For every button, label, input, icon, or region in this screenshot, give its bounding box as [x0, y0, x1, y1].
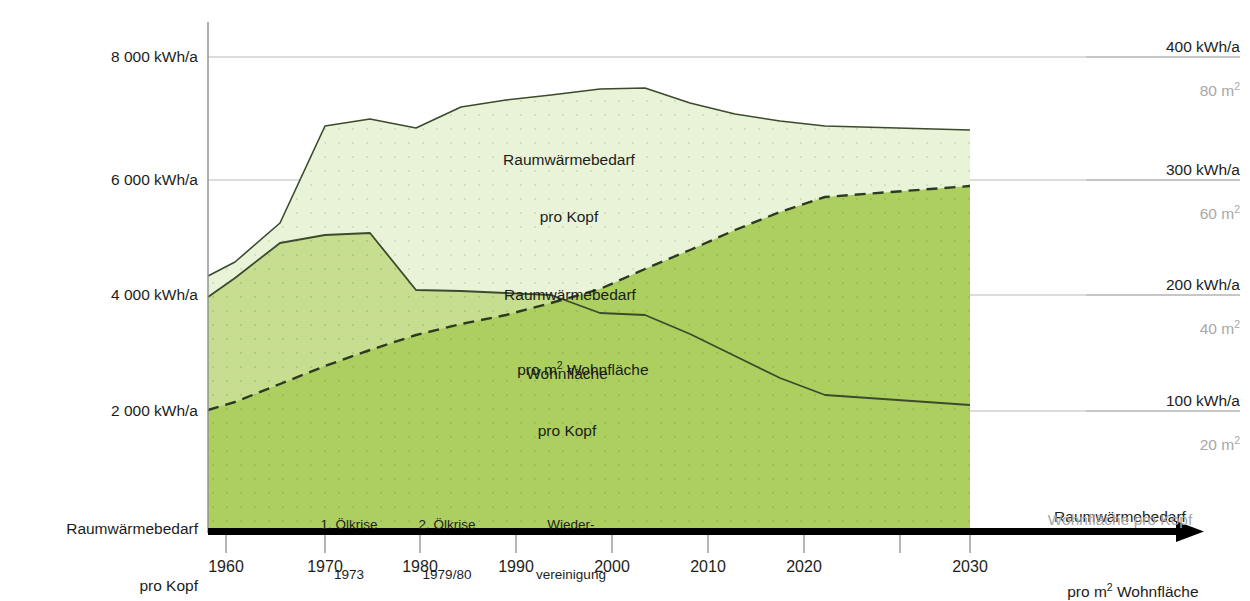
label-line-2: pro Kopf — [444, 208, 694, 227]
caption-right-axis-secondary: Wohnfläche pro Kopf — [1000, 511, 1240, 530]
caption-line-2-b: Wohnfläche — [1113, 583, 1199, 600]
caption-line-2-a: pro m — [1067, 583, 1107, 600]
superscript-2: 2 — [1234, 203, 1240, 215]
annotation-line-1: 2. Ölkrise — [392, 517, 502, 534]
y-left-tick-2000: 2 000 kWh/a — [0, 402, 198, 421]
annotation-line-1: Wieder- — [506, 517, 636, 534]
label-line-1: Wohnfläche — [462, 365, 672, 384]
y-right-tick-300: 300 kWh/a — [1042, 161, 1240, 180]
caption-line-2: pro Kopf — [0, 577, 198, 596]
y-right-tick-400: 400 kWh/a — [1042, 38, 1240, 57]
y-right-tick-80m2-value: 80 m — [1200, 82, 1234, 99]
label-wohnflaeche-pro-kopf: Wohnfläche pro Kopf — [462, 327, 672, 478]
x-tick-2000: 2000 — [567, 557, 657, 577]
x-tick-1960: 1960 — [181, 557, 271, 577]
y-right-tick-200: 200 kWh/a — [1042, 276, 1240, 295]
y-left-tick-8000: 8 000 kWh/a — [0, 48, 198, 67]
x-tick-1990: 1990 — [471, 557, 561, 577]
caption-line-2: pro m2 Wohnfläche — [1000, 565, 1240, 601]
superscript-2: 2 — [1234, 318, 1240, 330]
x-tick-1980: 1980 — [375, 557, 465, 577]
y-right-tick-80m2: 80 m2 — [1042, 63, 1240, 120]
y-right-tick-60m2: 60 m2 — [1042, 186, 1240, 243]
y-right-tick-40m2-value: 40 m — [1200, 320, 1234, 337]
label-raumwaermebedarf-pro-kopf: Raumwärmebedarf pro Kopf — [444, 113, 694, 264]
annotation-reunification: Wieder- vereinigung — [506, 483, 636, 601]
x-tick-2010: 2010 — [663, 557, 753, 577]
y-right-tick-100: 100 kWh/a — [1042, 392, 1240, 411]
annotation-line-1: 1. Ölkrise — [296, 517, 402, 534]
caption-right-axis-primary: Raumwärmebedarf pro m2 Wohnfläche — [1000, 470, 1240, 601]
chart-canvas: 8 000 kWh/a 6 000 kWh/a 4 000 kWh/a 2 00… — [0, 0, 1250, 601]
superscript-2: 2 — [1234, 80, 1240, 92]
y-left-tick-4000: 4 000 kWh/a — [0, 286, 198, 305]
y-right-tick-20m2-value: 20 m — [1200, 436, 1234, 453]
label-line-2: pro Kopf — [462, 422, 672, 441]
y-left-tick-6000: 6 000 kWh/a — [0, 171, 198, 190]
x-tick-2030: 2030 — [925, 557, 1015, 577]
superscript-2: 2 — [1234, 434, 1240, 446]
label-line-1: Raumwärmebedarf — [440, 286, 700, 305]
y-right-tick-60m2-value: 60 m — [1200, 205, 1234, 222]
caption-line-1: Raumwärmebedarf — [0, 520, 198, 539]
x-tick-2020: 2020 — [759, 557, 849, 577]
annotation-oil-crisis-1: 1. Ölkrise 1973 — [296, 483, 402, 601]
caption-left-axis: Raumwärmebedarf pro Kopf — [0, 482, 198, 601]
annotation-oil-crisis-2: 2. Ölkrise 1979/80 — [392, 483, 502, 601]
label-line-1: Raumwärmebedarf — [444, 151, 694, 170]
y-right-tick-40m2: 40 m2 — [1042, 301, 1240, 358]
x-tick-1970: 1970 — [280, 557, 370, 577]
y-right-tick-20m2: 20 m2 — [1042, 417, 1240, 474]
